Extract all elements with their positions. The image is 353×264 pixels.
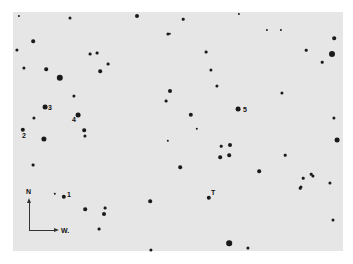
star — [228, 143, 232, 147]
star — [148, 199, 152, 203]
star — [284, 154, 287, 157]
star — [332, 36, 336, 40]
north-label: N — [26, 188, 31, 195]
west-arrow-icon — [54, 228, 59, 232]
star — [31, 39, 35, 43]
star — [168, 89, 172, 93]
star — [76, 113, 81, 118]
star — [83, 207, 87, 211]
star — [257, 169, 261, 173]
star — [32, 164, 35, 167]
star — [310, 173, 313, 176]
compass-north-line — [29, 200, 30, 230]
star — [329, 51, 335, 57]
star-label: 5 — [243, 106, 247, 113]
star — [226, 240, 232, 246]
star — [135, 14, 139, 18]
star — [96, 52, 99, 55]
star-label: T — [211, 189, 215, 196]
star — [165, 100, 168, 103]
north-arrow-icon — [27, 198, 31, 203]
star-label: 3 — [48, 104, 52, 111]
star — [89, 53, 92, 56]
star — [205, 51, 208, 54]
star — [44, 67, 48, 71]
star-label: 2 — [22, 132, 26, 139]
star — [178, 165, 182, 169]
star-label: 4 — [72, 116, 76, 123]
star-field — [13, 12, 343, 251]
compass-west-line — [29, 230, 55, 231]
star — [82, 128, 86, 132]
star — [305, 49, 308, 52]
star — [302, 177, 305, 180]
star — [102, 212, 106, 216]
star — [332, 219, 335, 222]
star — [149, 248, 152, 251]
star — [43, 105, 48, 110]
star — [321, 61, 324, 64]
star — [69, 17, 72, 20]
star — [218, 155, 222, 159]
star — [335, 138, 340, 143]
star — [227, 153, 231, 157]
star — [182, 18, 185, 21]
star — [220, 145, 223, 148]
west-label: W. — [61, 227, 69, 234]
star — [107, 63, 110, 66]
star — [98, 69, 102, 73]
star — [299, 187, 302, 190]
star — [236, 107, 241, 112]
star — [104, 207, 107, 210]
star — [98, 228, 101, 231]
star-label: 1 — [67, 191, 71, 198]
